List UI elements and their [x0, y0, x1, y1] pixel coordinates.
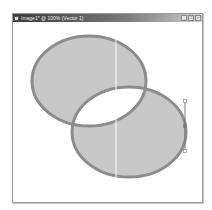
xor-ellipses-fill[interactable]	[32, 36, 186, 177]
vector-artwork[interactable]	[13, 22, 202, 202]
document-window: Image1* @ 100% (Vector 1) _ □ ×	[12, 13, 203, 203]
control-point-handle[interactable]	[184, 100, 187, 103]
control-point-handle[interactable]	[184, 150, 187, 153]
close-button[interactable]: ×	[195, 15, 201, 21]
window-title: Image1* @ 100% (Vector 1)	[21, 14, 83, 22]
drawing-canvas[interactable]	[13, 22, 202, 202]
title-bar[interactable]: Image1* @ 100% (Vector 1) _ □ ×	[13, 14, 202, 22]
document-icon	[14, 16, 19, 21]
maximize-button[interactable]: □	[188, 15, 194, 21]
anchor-point-handle[interactable]	[184, 125, 187, 128]
window-controls: _ □ ×	[181, 15, 201, 21]
minimize-button[interactable]: _	[181, 15, 187, 21]
